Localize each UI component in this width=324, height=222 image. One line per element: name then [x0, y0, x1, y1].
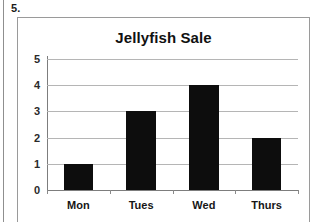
y-tick-label-0: 0: [34, 184, 40, 196]
bar-wed: [189, 85, 218, 190]
bar-tues: [126, 111, 155, 190]
gridline-3: [47, 111, 298, 112]
y-axis-line: [47, 56, 48, 193]
bar-thurs: [252, 138, 281, 190]
x-tick-label-thurs: Thurs: [251, 199, 282, 211]
x-tick-2: [173, 190, 174, 194]
bar-mon: [64, 164, 93, 190]
question-number: 5.: [11, 2, 21, 15]
y-tick-label-3: 3: [34, 105, 40, 117]
plot-area: 012345 MonTuesWedThurs: [47, 59, 298, 190]
y-tick-label-2: 2: [34, 132, 40, 144]
gridline-4: [47, 85, 298, 86]
x-tick-3: [235, 190, 236, 194]
gridline-5: [47, 59, 298, 60]
chart-title: Jellyfish Sale: [18, 29, 309, 46]
x-tick-label-mon: Mon: [67, 199, 90, 211]
y-tick-label-5: 5: [34, 53, 40, 65]
y-tick-label-1: 1: [34, 158, 40, 170]
page-margin-rule: [3, 0, 4, 222]
x-tick-0: [47, 190, 48, 194]
x-tick-4: [298, 190, 299, 194]
y-tick-label-4: 4: [34, 79, 40, 91]
x-tick-label-wed: Wed: [192, 199, 215, 211]
x-tick-label-tues: Tues: [129, 199, 154, 211]
x-tick-1: [110, 190, 111, 194]
chart-frame: Jellyfish Sale 012345 MonTuesWedThurs: [17, 17, 310, 222]
